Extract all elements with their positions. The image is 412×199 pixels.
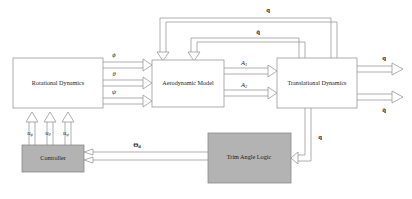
block-rotational-dynamics[interactable]: Rotational Dynamics [13, 58, 103, 108]
signal-label-u-psi: uψ [63, 129, 69, 137]
signal-label-feedback-q: q [266, 6, 270, 13]
signal-label-phi: ϕ [112, 51, 116, 58]
signal-label-psi: ψ [112, 88, 117, 95]
block-label-trim-angle-logic: Trim Angle Logic [227, 153, 272, 160]
svg-text:A2: A2 [240, 81, 248, 89]
block-label-controller: Controller [40, 154, 65, 161]
block-trim-angle-logic[interactable]: Trim Angle Logic [208, 133, 291, 183]
signal-label-theta-d: Θd [133, 141, 141, 149]
block-label-aerodynamic-model: Aerodynamic Model [162, 79, 214, 86]
block-controller[interactable]: Controller [22, 145, 84, 172]
signal-path-rotational-to-aerodynamic [103, 59, 152, 107]
diagram-canvas: Rotational Dynamics Aerodynamic Model Tr… [0, 0, 412, 199]
svg-text:Θd: Θd [133, 141, 141, 149]
block-aerodynamic-model[interactable]: Aerodynamic Model [152, 60, 224, 107]
signal-path-controller-to-rotational [26, 112, 74, 145]
svg-text:uψ: uψ [63, 129, 69, 137]
output-arrows [357, 63, 403, 103]
svg-text:uθ: uθ [45, 129, 51, 137]
feedback-loop-outer [157, 18, 337, 61]
svg-text:uϕ: uϕ [27, 129, 33, 137]
signal-label-feedback-qdot: q̇ [256, 28, 260, 35]
signal-label-a2: A2 [240, 81, 248, 89]
signal-path-translational-to-trim [291, 108, 311, 164]
feedback-loop-inner [188, 38, 305, 61]
signal-label-theta: θ [112, 70, 116, 77]
signal-label-output-qdot: q̇ [382, 106, 386, 113]
block-translational-dynamics[interactable]: Translational Dynamics [277, 58, 357, 108]
signal-label-u-theta: uθ [45, 129, 51, 137]
signal-path-aerodynamic-to-translational [224, 65, 277, 99]
signal-label-trim-feedback-q: q [318, 133, 322, 140]
block-label-rotational-dynamics: Rotational Dynamics [32, 79, 85, 86]
signal-label-output-q: q [382, 54, 386, 61]
signal-path-trim-to-controller [84, 149, 208, 163]
svg-text:A1: A1 [240, 59, 247, 67]
block-diagram-figure: Rotational Dynamics Aerodynamic Model Tr… [0, 0, 412, 199]
signal-label-u-phi: uϕ [27, 129, 33, 137]
block-label-translational-dynamics: Translational Dynamics [287, 79, 347, 86]
signal-label-a1: A1 [240, 59, 247, 67]
